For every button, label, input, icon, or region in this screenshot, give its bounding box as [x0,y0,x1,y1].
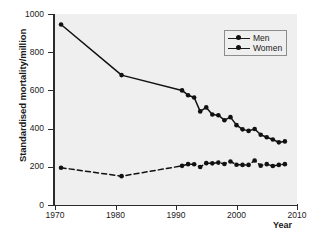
x-tick-label: 1990 [156,211,196,220]
y-tick-mark [48,14,53,15]
data-point [186,162,191,167]
data-point [180,164,185,169]
x-tick-label: 2000 [217,211,257,220]
y-tick-label: 400 [4,124,44,133]
legend-label-women: Women [250,43,282,53]
data-point [258,163,263,168]
data-point [222,118,227,123]
data-point [246,163,251,168]
data-point [186,93,191,98]
data-point [264,135,269,140]
data-point [216,160,221,165]
data-point [234,123,239,128]
data-point [277,140,282,145]
data-point [192,95,197,100]
data-point [271,164,276,169]
data-point [252,158,257,163]
y-tick-mark [48,205,53,206]
data-point [283,162,288,167]
y-tick-label: 800 [4,48,44,57]
data-point [216,113,221,118]
data-point [277,163,282,168]
legend-item-men: Men [228,33,282,43]
y-tick-mark [48,167,53,168]
y-tick-mark [48,52,53,53]
y-axis-title: Standardised mortality/million [17,11,28,181]
figure-caption [6,240,306,248]
legend: Men Women [224,30,287,56]
data-point [234,162,239,167]
data-point [283,139,288,144]
data-point [271,137,276,142]
x-tick-label: 1970 [35,211,75,220]
y-tick-mark [48,129,53,130]
figure-container: Standardised mortality/million 020040060… [0,0,322,248]
data-point [180,88,185,93]
legend-label-men: Men [250,33,270,43]
data-point [198,109,203,114]
legend-swatch-women-icon [228,44,250,53]
data-point [198,165,203,170]
legend-swatch-men-icon [228,34,250,43]
series-women [59,158,287,178]
data-point [210,112,215,117]
data-point [119,73,124,78]
data-point [264,162,269,167]
data-point [252,127,257,132]
data-point [192,162,197,167]
series-line-women [61,161,285,177]
data-point [228,159,233,164]
x-tick-label: 1980 [96,211,136,220]
x-axis-title: Year [273,220,292,230]
y-tick-label: 200 [4,162,44,171]
data-point [222,162,227,167]
y-tick-label: 600 [4,86,44,95]
data-point [228,115,233,120]
y-tick-mark [48,90,53,91]
data-point [258,132,263,137]
y-tick-label: 1000 [4,10,44,19]
data-point [240,127,245,132]
data-point [59,22,64,27]
data-point [204,161,209,166]
data-point [119,174,124,179]
data-point [246,129,251,134]
data-point [59,165,64,170]
data-point [204,105,209,110]
data-point [210,161,215,166]
data-point [240,163,245,168]
x-tick-label: 2010 [277,211,317,220]
y-tick-label: 0 [4,201,44,210]
legend-item-women: Women [228,43,282,53]
